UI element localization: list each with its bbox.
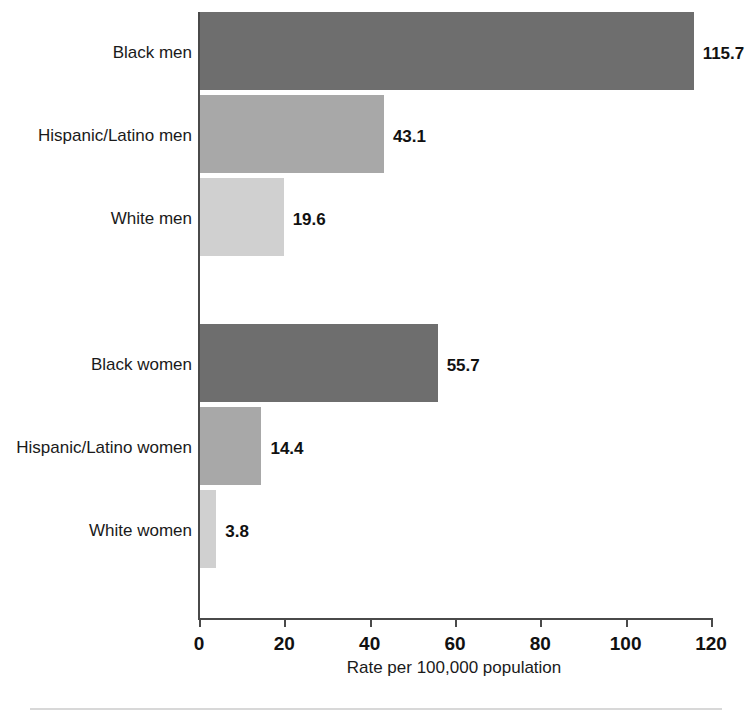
x-tick-mark-40 bbox=[370, 618, 372, 627]
category-label-white-women: White women bbox=[89, 522, 192, 539]
bar-white-women bbox=[200, 490, 216, 568]
category-axis-labels: Black men Hispanic/Latino men White men … bbox=[0, 0, 192, 716]
bar-black-women bbox=[200, 324, 438, 402]
x-tick-label-40: 40 bbox=[359, 634, 380, 653]
value-label-hispanic-latino-women: 14.4 bbox=[270, 440, 303, 457]
value-label-black-men: 115.7 bbox=[703, 45, 745, 62]
x-tick-mark-120 bbox=[711, 618, 713, 627]
category-label-white-men: White men bbox=[111, 210, 192, 227]
x-tick-label-60: 60 bbox=[444, 634, 465, 653]
bar-hispanic-latino-men bbox=[200, 95, 384, 173]
category-label-hispanic-latino-men: Hispanic/Latino men bbox=[38, 127, 192, 144]
x-tick-mark-100 bbox=[626, 618, 628, 627]
bar-white-men bbox=[200, 178, 284, 256]
value-label-white-women: 3.8 bbox=[225, 523, 249, 540]
value-label-white-men: 19.6 bbox=[293, 211, 326, 228]
value-label-black-women: 55.7 bbox=[447, 357, 480, 374]
x-tick-label-100: 100 bbox=[610, 634, 642, 653]
x-tick-mark-20 bbox=[284, 618, 286, 627]
category-label-hispanic-latino-women: Hispanic/Latino women bbox=[16, 439, 192, 456]
bottom-divider-rule bbox=[30, 708, 722, 710]
x-tick-mark-80 bbox=[540, 618, 542, 627]
x-tick-label-120: 120 bbox=[695, 634, 727, 653]
bar-chart-figure: Black men Hispanic/Latino men White men … bbox=[0, 0, 752, 716]
bar-hispanic-latino-women bbox=[200, 407, 261, 485]
x-tick-mark-60 bbox=[455, 618, 457, 627]
x-tick-label-80: 80 bbox=[530, 634, 551, 653]
x-tick-label-20: 20 bbox=[274, 634, 295, 653]
category-label-black-men: Black men bbox=[113, 44, 192, 61]
x-tick-mark-0 bbox=[199, 618, 201, 627]
bar-black-men bbox=[200, 12, 694, 90]
x-axis-title: Rate per 100,000 population bbox=[198, 659, 710, 676]
category-label-black-women: Black women bbox=[91, 356, 192, 373]
value-label-hispanic-latino-men: 43.1 bbox=[393, 128, 426, 145]
plot-area: 115.7 43.1 19.6 55.7 14.4 3.8 0 20 40 60… bbox=[198, 12, 710, 620]
x-tick-label-0: 0 bbox=[194, 634, 205, 653]
